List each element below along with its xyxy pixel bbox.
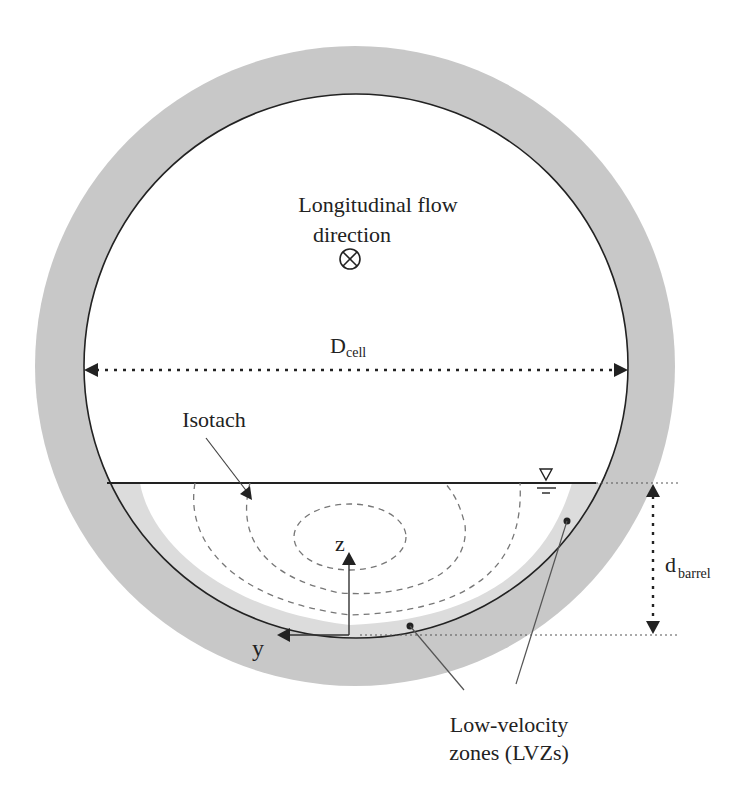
culvert-cross-section-diagram: D cell Longitudinal flow direction Isota… [0,0,749,793]
flow-direction-label-line1: Longitudinal flow [298,192,458,217]
flow-direction-label-line2: direction [313,222,391,247]
depth-subscript: barrel [678,566,711,581]
depth-dimension [646,484,660,634]
lvz-label-line2: zones (LVZs) [449,740,569,765]
z-axis-label: z [335,531,345,556]
diameter-subscript: cell [346,345,366,360]
diameter-label: D [330,333,346,358]
isotach-label: Isotach [182,407,246,432]
y-axis-label: y [252,635,264,661]
lvz-label-line1: Low-velocity [450,712,569,737]
depth-label: d [665,552,676,577]
